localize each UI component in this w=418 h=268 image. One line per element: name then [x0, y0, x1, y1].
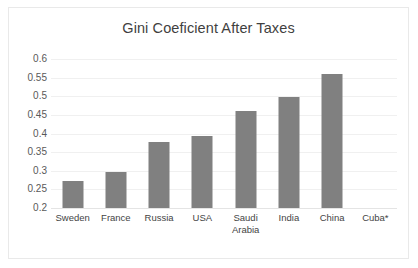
bar-slot — [138, 59, 181, 208]
x-axis-category-label: Sweden — [51, 212, 94, 224]
bar-slot — [267, 59, 310, 208]
x-axis-category-label: Russia — [138, 212, 181, 224]
bar-slot — [311, 59, 354, 208]
x-axis-category-label: China — [311, 212, 354, 224]
bar-slot — [51, 59, 94, 208]
x-axis-category-label: SaudiArabia — [224, 212, 267, 235]
y-axis-tick-label: 0.25 — [9, 184, 47, 194]
x-axis-category-label: India — [267, 212, 310, 224]
bar-slot — [354, 59, 397, 208]
y-axis-tick-label: 0.55 — [9, 73, 47, 83]
bar-slot — [224, 59, 267, 208]
x-axis-category-label: France — [94, 212, 137, 224]
bar-slot — [181, 59, 224, 208]
bar[interactable] — [149, 142, 170, 208]
gridline — [51, 208, 397, 209]
bar[interactable] — [62, 181, 83, 208]
y-axis-tick-label: 0.4 — [9, 129, 47, 139]
y-axis-tick-label: 0.45 — [9, 110, 47, 120]
chart-container: Gini Coeficient After Taxes 0.60.550.50.… — [8, 7, 409, 259]
bar[interactable] — [192, 136, 213, 208]
y-axis-tick-label: 0.5 — [9, 91, 47, 101]
bar[interactable] — [105, 172, 126, 209]
chart-title: Gini Coeficient After Taxes — [9, 20, 408, 36]
y-axis-tick-label: 0.6 — [9, 54, 47, 64]
x-axis-category-label: USA — [181, 212, 224, 224]
y-axis: 0.60.550.50.450.40.350.30.250.2 — [9, 8, 47, 258]
bar[interactable] — [235, 111, 256, 208]
x-axis-category-label: Cuba* — [354, 212, 397, 224]
plot-area — [51, 59, 397, 208]
y-axis-tick-label: 0.3 — [9, 166, 47, 176]
bar-slot — [94, 59, 137, 208]
y-axis-tick-label: 0.35 — [9, 147, 47, 157]
y-axis-tick-label: 0.2 — [9, 203, 47, 213]
bar[interactable] — [322, 74, 343, 208]
bar[interactable] — [278, 97, 299, 208]
